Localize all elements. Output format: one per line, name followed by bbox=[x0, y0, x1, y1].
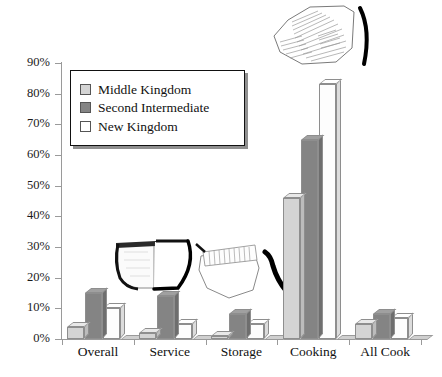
chart-legend: Middle KingdomSecond IntermediateNew Kin… bbox=[70, 70, 245, 146]
y-axis-tick-mark bbox=[55, 155, 61, 156]
legend-item: Middle Kingdom bbox=[80, 82, 235, 97]
y-axis-tick-mark bbox=[55, 308, 61, 309]
legend-swatch-icon bbox=[80, 121, 91, 132]
bar-side-face bbox=[174, 291, 179, 339]
y-axis-tick-mark bbox=[55, 186, 61, 187]
bar-side-face bbox=[318, 134, 323, 339]
x-axis-category-label-cooking: Cooking bbox=[277, 343, 349, 361]
bar-service-middle-kingdom bbox=[139, 333, 156, 339]
y-axis-tick-mark bbox=[55, 63, 61, 64]
bar-side-face bbox=[336, 79, 341, 339]
x-axis-category-label-all-cook: All Cook bbox=[349, 343, 421, 361]
x-axis-category-label-service: Service bbox=[134, 343, 206, 361]
x-axis-category-label-overall: Overall bbox=[62, 343, 134, 361]
bar-storage-middle-kingdom bbox=[211, 336, 228, 339]
bar-front-face bbox=[139, 333, 156, 339]
y-axis-tick-label: 70% bbox=[4, 117, 50, 129]
legend-swatch-icon bbox=[80, 84, 91, 95]
y-axis-tick-label: 90% bbox=[4, 56, 50, 68]
bar-overall-middle-kingdom bbox=[67, 327, 84, 339]
bar-group bbox=[355, 63, 408, 339]
y-axis-tick-mark bbox=[55, 339, 61, 340]
bar-chart: 0%10%20%30%40%50%60%70%80%90% OverallSer… bbox=[0, 0, 442, 377]
bar-side-face bbox=[120, 303, 125, 339]
x-axis-category-label-storage: Storage bbox=[206, 343, 278, 361]
legend-item: Second Intermediate bbox=[80, 100, 235, 115]
bar-storage-second-intermediate bbox=[229, 314, 246, 339]
pottery-vessel-cup-icon bbox=[108, 232, 200, 294]
y-axis-tick-label: 40% bbox=[4, 209, 50, 221]
bar-side-face bbox=[300, 192, 305, 339]
legend-item-label: New Kingdom bbox=[98, 119, 178, 134]
y-axis-tick-mark bbox=[55, 216, 61, 217]
bar-front-face bbox=[229, 314, 246, 339]
y-axis-tick-label: 10% bbox=[4, 301, 50, 313]
y-axis-tick-mark bbox=[55, 247, 61, 248]
pottery-sherd-top-right-icon bbox=[258, 2, 380, 68]
bar-all-cook-middle-kingdom bbox=[355, 324, 372, 339]
y-axis-tick-label: 80% bbox=[4, 87, 50, 99]
y-axis-tick-mark bbox=[55, 278, 61, 279]
x-axis-tick-mark bbox=[421, 339, 422, 345]
pottery-sherd-middle-icon bbox=[193, 238, 297, 302]
legend-item-label: Second Intermediate bbox=[98, 100, 209, 115]
y-axis-tick-label: 60% bbox=[4, 148, 50, 160]
bar-front-face bbox=[355, 324, 372, 339]
bar-front-face bbox=[67, 327, 84, 339]
legend-item-label: Middle Kingdom bbox=[98, 82, 191, 97]
y-axis-tick-label: 30% bbox=[4, 240, 50, 252]
bar-group bbox=[283, 63, 336, 339]
y-axis-tick-mark bbox=[55, 124, 61, 125]
bar-front-face bbox=[211, 336, 228, 339]
legend-swatch-icon bbox=[80, 102, 91, 113]
y-axis-tick-label: 0% bbox=[4, 332, 50, 344]
y-axis-tick-label: 50% bbox=[4, 179, 50, 191]
bar-cooking-middle-kingdom bbox=[283, 198, 300, 339]
x-axis-line bbox=[61, 339, 421, 340]
y-axis-tick-label: 20% bbox=[4, 271, 50, 283]
legend-item: New Kingdom bbox=[80, 119, 235, 134]
y-axis-tick-mark bbox=[55, 94, 61, 95]
bar-front-face bbox=[283, 198, 300, 339]
bar-side-face bbox=[102, 287, 107, 339]
